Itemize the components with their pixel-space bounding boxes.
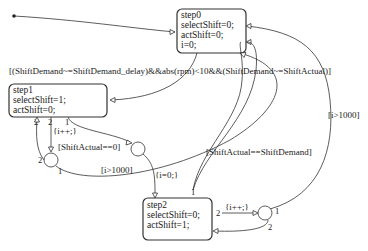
state-step2[interactable]: step2 selectShift=0; actShift=1; [143, 198, 212, 240]
transition-label-step1-counter: {i++;} [53, 126, 77, 136]
state-step2-action2: actShift=1; [147, 220, 189, 230]
arrow-icon [170, 30, 175, 35]
transition-label-shift-actual-zero: [ShiftActual==0] [58, 142, 120, 152]
junction-2[interactable] [131, 142, 145, 156]
exec-order: 1 [275, 206, 279, 216]
stateflow-diagram: step0 selectShift=0; actShift=0; i=0; [(… [0, 0, 368, 251]
transition-label-step2-counter: {i++;} [225, 202, 249, 212]
transition-label-shift-reached: [ShiftActual==ShiftDemand] [206, 147, 312, 157]
arrow-icon [213, 229, 218, 234]
transition-step2-to-step0-curve [193, 42, 257, 190]
transition-label-reset-counter: {i=0;} [155, 170, 178, 180]
transition-step0-to-step1[interactable] [111, 53, 197, 100]
state-step0-action1: selectShift=0; [181, 20, 234, 30]
transition-label-step1-timeout: [i>1000] [101, 165, 133, 175]
transition-step1-to-junction2[interactable] [68, 117, 130, 142]
exec-order: 2 [48, 117, 52, 127]
state-step1-action1: selectShift=1; [13, 95, 66, 105]
default-transition-edge[interactable] [14, 16, 175, 32]
transition-label-step0-to-step1: [(ShiftDemand~=ShiftDemand_delay)&&abs(r… [9, 66, 331, 76]
state-step2-action1: selectShift=0; [147, 210, 200, 220]
arrow-icon [49, 147, 54, 152]
arrow-icon [153, 193, 158, 198]
transition-junction2-to-step2[interactable] [143, 154, 155, 190]
state-step0-action2: actShift=0; [181, 30, 223, 40]
transition-step2-to-step0[interactable] [193, 42, 242, 190]
state-step1-name: step1 [13, 85, 33, 95]
transition-label-step2-timeout: [i>1000] [328, 110, 360, 120]
state-step2-name: step2 [147, 200, 167, 210]
exec-order: 2 [268, 222, 272, 232]
arrow-icon [126, 140, 132, 145]
arrow-icon [246, 24, 251, 29]
state-step0-name: step0 [181, 10, 201, 20]
state-step0[interactable]: step0 selectShift=0; actShift=0; i=0; [177, 9, 246, 53]
arrow-icon [110, 98, 115, 103]
state-step1-action2: actShift=0; [13, 105, 55, 115]
arrow-icon [253, 211, 258, 216]
state-step0-action3: i=0; [181, 40, 196, 50]
transition-junction3-to-step2[interactable] [215, 220, 268, 231]
state-step1[interactable]: step1 selectShift=1; actShift=0; [9, 84, 107, 117]
junction-3[interactable] [258, 206, 272, 220]
junction-1[interactable] [44, 153, 58, 167]
exec-order: 2 [216, 208, 220, 218]
